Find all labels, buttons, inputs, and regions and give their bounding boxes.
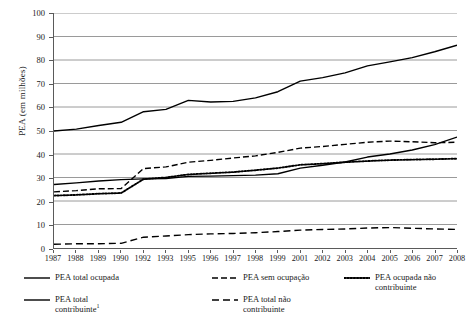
x-tick-label: 2002 (314, 254, 330, 263)
x-tick-mark (300, 250, 301, 253)
x-tick-mark (233, 250, 234, 253)
x-tick-label: 2008 (449, 254, 465, 263)
x-tick-label: 1987 (45, 254, 61, 263)
x-tick-mark (210, 250, 211, 253)
x-axis-tick-labels: 1987198819891990199219931995199619971998… (53, 250, 457, 266)
x-tick-mark (457, 250, 458, 253)
y-tick-label: 20 (37, 198, 46, 207)
x-tick-label: 2004 (359, 254, 375, 263)
x-tick-mark (412, 250, 413, 253)
legend-line-swatch (24, 295, 50, 305)
x-tick-mark (75, 250, 76, 253)
legend-label: PEA sem ocupação (243, 272, 309, 282)
legend-label: PEA total contribuinte1 (55, 294, 100, 314)
series-line (54, 45, 457, 131)
y-tick-label: 10 (37, 221, 46, 230)
y-tick-label: 60 (37, 103, 46, 112)
y-tick-label: 90 (37, 33, 46, 42)
chart-container: PEA (em milhões) 1009080706050403020100 … (0, 0, 467, 318)
x-tick-label: 1997 (224, 254, 240, 263)
x-tick-mark (367, 250, 368, 253)
y-tick-label: 0 (41, 245, 45, 254)
x-tick-label: 1999 (269, 254, 285, 263)
x-tick-mark (120, 250, 121, 253)
x-tick-label: 2006 (404, 254, 420, 263)
x-tick-label: 1992 (135, 254, 151, 263)
x-tick-label: 1990 (112, 254, 128, 263)
y-tick-label: 100 (32, 9, 45, 18)
legend-label: PEA total ocupada (55, 272, 119, 282)
legend-entry[interactable]: PEA total ocupada (24, 272, 119, 283)
x-tick-mark (98, 250, 99, 253)
legend-line-swatch (212, 273, 238, 283)
legend-entry[interactable]: PEA total não contribuinte (212, 294, 291, 314)
legend-line-swatch (212, 295, 238, 305)
x-tick-label: 1993 (157, 254, 173, 263)
legend-label: PEA ocupada não contribuinte (375, 272, 436, 292)
y-tick-label: 80 (37, 56, 46, 65)
series-line (54, 228, 457, 245)
legend-label: PEA total não contribuinte (243, 294, 291, 314)
x-tick-label: 2001 (292, 254, 308, 263)
x-tick-label: 1988 (67, 254, 83, 263)
x-tick-mark (435, 250, 436, 253)
x-tick-mark (255, 250, 256, 253)
x-tick-label: 2005 (381, 254, 397, 263)
x-tick-label: 1989 (90, 254, 106, 263)
legend-line-swatch (24, 273, 50, 283)
y-tick-label: 70 (37, 80, 46, 89)
x-tick-mark (390, 250, 391, 253)
y-tick-label: 40 (37, 151, 46, 160)
legend-line-swatch (344, 273, 370, 283)
y-tick-label: 30 (37, 174, 46, 183)
x-tick-mark (188, 250, 189, 253)
x-tick-label: 2003 (337, 254, 353, 263)
plot-lines (54, 13, 457, 248)
x-tick-mark (165, 250, 166, 253)
x-tick-mark (277, 250, 278, 253)
x-tick-mark (322, 250, 323, 253)
series-line (54, 141, 457, 192)
x-tick-mark (143, 250, 144, 253)
chart-legend: PEA total ocupadaPEA total contribuinte1… (24, 272, 464, 316)
legend-entry[interactable]: PEA total contribuinte1 (24, 294, 100, 314)
x-tick-label: 1995 (179, 254, 195, 263)
x-tick-mark (53, 250, 54, 253)
x-tick-label: 1996 (202, 254, 218, 263)
x-tick-mark (345, 250, 346, 253)
legend-entry[interactable]: PEA sem ocupação (212, 272, 309, 283)
legend-footnote-marker: 1 (97, 303, 100, 309)
legend-entry[interactable]: PEA ocupada não contribuinte (344, 272, 436, 292)
x-tick-label: 2007 (426, 254, 442, 263)
y-axis-tick-labels: 1009080706050403020100 (0, 0, 53, 249)
plot-area (53, 13, 457, 249)
x-tick-label: 1998 (247, 254, 263, 263)
y-tick-label: 50 (37, 127, 46, 136)
